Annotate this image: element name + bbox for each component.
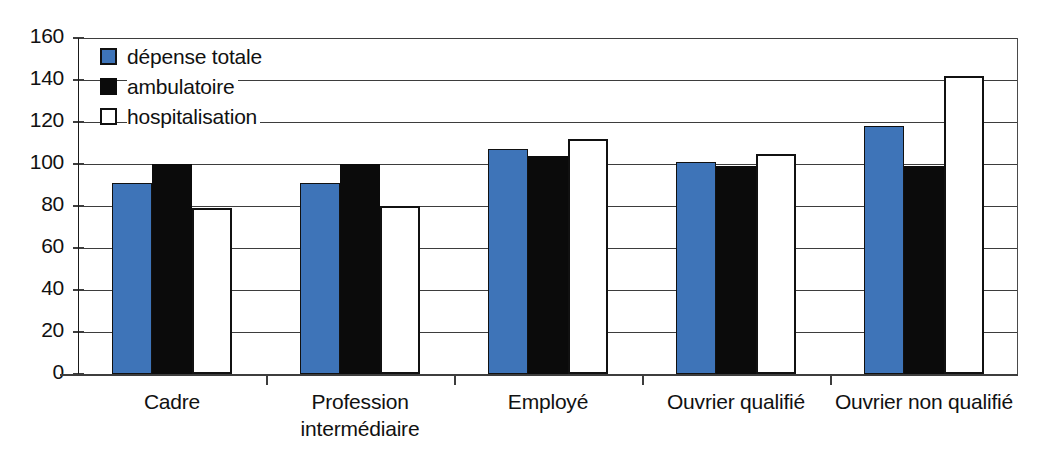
x-axis-line: [60, 374, 1018, 376]
y-tick-label: 120: [0, 108, 64, 132]
x-tick-mark: [830, 375, 832, 385]
bar-total: [300, 183, 340, 374]
blue-square-icon: [100, 48, 117, 65]
category-label-line: Ouvrier qualifié: [667, 390, 805, 413]
category-label-line: intermédiaire: [266, 415, 454, 442]
legend-item-label: hospitalisation: [127, 105, 260, 129]
y-tick-label: 20: [0, 318, 64, 342]
legend-item-label: ambulatoire: [127, 75, 238, 99]
legend-item: dépense totale: [100, 42, 265, 71]
bar-ambulatoire: [716, 166, 756, 374]
bar-hospitalisation: [944, 76, 984, 374]
bar-ambulatoire: [340, 164, 380, 374]
bar-total: [488, 149, 528, 374]
bar-total: [864, 126, 904, 374]
bar-ambulatoire: [528, 156, 568, 374]
y-tick-label: 40: [0, 276, 64, 300]
category-label-line: Ouvrier non qualifié: [835, 390, 1013, 413]
category-label: Professionintermédiaire: [266, 388, 454, 442]
x-tick-mark: [454, 375, 456, 385]
white-square-icon: [100, 108, 117, 125]
y-tick-label: 0: [0, 360, 64, 384]
y-tick-label: 160: [0, 24, 64, 48]
bar-hospitalisation: [192, 208, 232, 374]
category-label: Cadre: [78, 388, 266, 415]
category-label-line: Employé: [508, 390, 588, 413]
category-label: Ouvrier qualifié: [642, 388, 830, 415]
bar-hospitalisation: [756, 154, 796, 375]
category-label-line: Cadre: [144, 390, 200, 413]
category-label-line: Profession: [311, 390, 408, 413]
bar-total: [112, 183, 152, 374]
legend-item: ambulatoire: [100, 72, 265, 101]
y-axis-line: [78, 38, 79, 375]
y-tick-label: 100: [0, 150, 64, 174]
bar-hospitalisation: [380, 206, 420, 374]
bar-ambulatoire: [152, 164, 192, 374]
bar-chart: 160140120100806040200 CadreProfessionint…: [0, 0, 1050, 449]
legend-item: hospitalisation: [100, 102, 265, 131]
category-label: Employé: [454, 388, 642, 415]
category-label: Ouvrier non qualifié: [830, 388, 1018, 415]
bar-hospitalisation: [568, 139, 608, 374]
x-tick-mark: [642, 375, 644, 385]
plot-right-border: [1017, 38, 1018, 375]
legend: dépense totaleambulatoirehospitalisation: [100, 42, 265, 132]
gridline: [78, 38, 1018, 39]
bar-ambulatoire: [904, 166, 944, 374]
x-tick-mark: [266, 375, 268, 385]
y-tick-label: 80: [0, 192, 64, 216]
bar-total: [676, 162, 716, 374]
y-tick-label: 140: [0, 66, 64, 90]
y-tick-label: 60: [0, 234, 64, 258]
legend-item-label: dépense totale: [127, 45, 265, 69]
black-square-icon: [100, 78, 117, 95]
